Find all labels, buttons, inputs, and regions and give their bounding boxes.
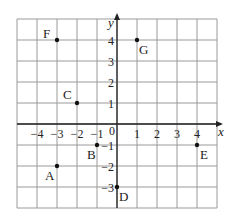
point-c <box>75 101 79 105</box>
point-label-e: E <box>200 147 208 162</box>
x-axis-label: x <box>217 124 224 139</box>
y-axis-label: y <box>106 15 114 30</box>
point-e <box>195 143 199 147</box>
x-tick-label: −2 <box>71 127 84 141</box>
point-a <box>55 164 59 168</box>
y-tick-label: −2 <box>101 160 114 174</box>
y-tick-label: −1 <box>101 139 114 153</box>
coordinate-plane: xy0 −4−3−2−112344321−1−2−3 ABCDEFG <box>0 0 231 222</box>
origin-label: 0 <box>109 124 115 138</box>
x-tick-label: 2 <box>154 127 160 141</box>
point-f <box>55 38 59 42</box>
x-tick-label: −3 <box>51 127 64 141</box>
points: ABCDEFG <box>43 26 208 204</box>
y-axis-arrow-icon <box>114 13 120 20</box>
y-tick-label: −3 <box>101 181 114 195</box>
point-label-c: C <box>63 87 72 102</box>
point-label-f: F <box>43 26 50 41</box>
point-label-a: A <box>45 168 55 183</box>
x-tick-label: 4 <box>194 127 200 141</box>
y-tick-label: 3 <box>108 55 114 69</box>
y-tick-label: 4 <box>108 34 114 48</box>
x-tick-label: 1 <box>134 127 140 141</box>
y-tick-label: 1 <box>108 97 114 111</box>
point-label-d: D <box>119 189 128 204</box>
x-tick-label: 3 <box>174 127 180 141</box>
point-label-g: G <box>139 42 148 57</box>
tick-labels: −4−3−2−112344321−1−2−3 <box>31 34 200 195</box>
y-tick-label: 2 <box>108 76 114 90</box>
point-label-b: B <box>87 147 96 162</box>
x-tick-label: −4 <box>31 127 44 141</box>
